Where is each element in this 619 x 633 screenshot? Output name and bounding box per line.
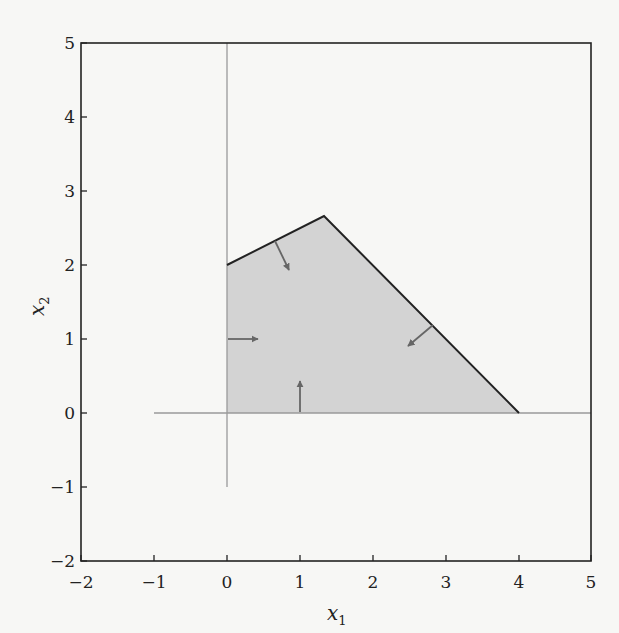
y-axis-label: x2: [25, 296, 52, 316]
y-ticks: [81, 43, 87, 561]
x-tick-label: 5: [586, 572, 597, 592]
x-tick-label: 4: [514, 572, 525, 592]
x-tick-label: −1: [141, 572, 166, 592]
y-tick-label: 0: [64, 403, 75, 423]
x-tick-label: 2: [368, 572, 379, 592]
x-tick-label: 3: [441, 572, 452, 592]
x-ticks: [81, 555, 591, 561]
feasible-region: [227, 216, 519, 413]
x-tick-label: 1: [295, 572, 306, 592]
y-tick-label: −1: [50, 477, 75, 497]
y-tick-label: 2: [64, 255, 75, 275]
y-tick-label: 4: [64, 107, 75, 127]
x-tick-label: 0: [222, 572, 233, 592]
x-axis-label: x1: [327, 601, 347, 628]
y-tick-label: 3: [64, 181, 75, 201]
x-tick-label: −2: [68, 572, 93, 592]
y-tick-label: 5: [64, 33, 75, 53]
chart: −2 −1 0 1 2 3 4 5 5 4 3 2 1 0 −1 −2 x1 x…: [0, 0, 619, 633]
y-tick-label: −2: [50, 551, 75, 571]
y-tick-label: 1: [64, 329, 75, 349]
